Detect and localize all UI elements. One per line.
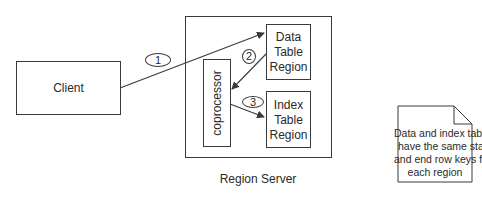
data-region-line-3: Region: [267, 60, 310, 74]
region-server-label: Region Server: [208, 172, 308, 186]
step-3-badge: 3: [242, 96, 264, 108]
index-region-line-2: Table: [267, 113, 310, 127]
index-region-line-1: Index: [267, 98, 310, 112]
client-label: Client: [17, 81, 120, 95]
index-table-region-box: Index Table Region: [266, 91, 311, 148]
step-1-badge: 1: [145, 53, 171, 67]
note-text: Data and index tables have the same star…: [398, 127, 472, 179]
client-box: Client: [16, 61, 121, 115]
note-line-4: each region: [398, 166, 472, 179]
data-region-line-1: Data: [267, 30, 310, 44]
note-line-2: have the same start: [398, 140, 472, 153]
index-region-line-3: Region: [267, 128, 310, 142]
data-region-line-2: Table: [267, 45, 310, 59]
coprocessor-label: coprocessor: [210, 63, 224, 143]
note-line-1: Data and index tables: [394, 127, 476, 140]
data-table-region-box: Data Table Region: [266, 24, 311, 80]
note-line-3: and end row keys for: [394, 153, 476, 166]
step-2-badge: 2: [242, 49, 256, 64]
